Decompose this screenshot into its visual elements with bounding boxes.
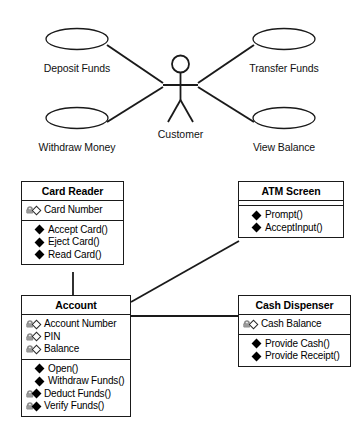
class-title-atm-screen: ATM Screen — [239, 182, 343, 201]
class-box-card-reader[interactable]: Card Reader Card Number — [21, 181, 124, 265]
attribute-row: Cash Balance — [243, 318, 348, 331]
filled-diamond-icon — [36, 363, 47, 375]
attribute-row: Account Number — [26, 318, 128, 331]
operation-label: Read Card() — [48, 249, 101, 261]
attribute-row: Card Number — [26, 204, 121, 217]
operation-row: Verify Funds() — [26, 400, 128, 413]
operation-row: Accept Card() — [26, 224, 121, 237]
class-box-atm-screen[interactable]: ATM Screen Prompt() AcceptInput() — [238, 181, 344, 238]
attributes-compartment-account: Account Number PIN — [22, 315, 130, 360]
filled-diamond-icon — [36, 375, 47, 387]
lock-hollow-diamond-icon — [26, 318, 43, 330]
operation-row: Read Card() — [26, 249, 121, 262]
operation-label: Provide Receipt() — [265, 350, 340, 362]
filled-diamond-icon — [253, 350, 264, 362]
filled-diamond-icon — [253, 209, 264, 221]
lock-hollow-diamond-icon — [26, 204, 43, 216]
operations-compartment-card-reader: Accept Card() Eject Card() Read Card() — [22, 221, 123, 265]
lock-hollow-diamond-icon — [26, 331, 43, 343]
filled-diamond-glyph — [252, 351, 262, 361]
filled-diamond-glyph — [35, 225, 45, 235]
class-title-card-reader: Card Reader — [22, 182, 123, 201]
attribute-label: Card Number — [44, 204, 102, 216]
class-box-account[interactable]: Account Account Number — [21, 295, 131, 417]
operation-label: AcceptInput() — [265, 222, 323, 234]
filled-diamond-icon — [36, 236, 47, 248]
class-box-cash-dispenser[interactable]: Cash Dispenser Cash Balance — [238, 295, 351, 367]
filled-diamond-glyph — [35, 237, 45, 247]
attribute-row: Balance — [26, 343, 128, 356]
operation-row: Deduct Funds() — [26, 388, 128, 401]
operation-label: Prompt() — [265, 209, 303, 221]
operation-label: Eject Card() — [48, 236, 100, 248]
filled-diamond-glyph — [252, 210, 262, 220]
filled-diamond-glyph — [252, 223, 262, 233]
operation-label: Provide Cash() — [265, 338, 330, 350]
class-title-cash-dispenser: Cash Dispenser — [239, 296, 350, 315]
operation-row: Open() — [26, 363, 128, 376]
filled-diamond-icon — [253, 222, 264, 234]
attribute-label: Account Number — [44, 318, 116, 330]
lock-filled-diamond-icon — [26, 388, 43, 400]
uml-diagram-canvas: Deposit Funds Transfer Funds Withdraw Mo… — [0, 0, 363, 434]
filled-diamond-glyph — [252, 339, 262, 349]
operations-compartment-account: Open() Withdraw Funds() — [22, 360, 130, 416]
operation-row: Provide Cash() — [243, 338, 348, 351]
filled-diamond-icon — [36, 224, 47, 236]
operation-row: Provide Receipt() — [243, 350, 348, 363]
filled-diamond-icon — [253, 338, 264, 350]
lock-hollow-diamond-icon — [26, 343, 43, 355]
operations-compartment-atm-screen: Prompt() AcceptInput() — [239, 206, 343, 237]
operation-row: AcceptInput() — [243, 222, 341, 235]
operations-compartment-cash-dispenser: Provide Cash() Provide Receipt() — [239, 335, 350, 366]
operation-label: Withdraw Funds() — [48, 375, 125, 387]
filled-diamond-icon — [36, 249, 47, 261]
attributes-compartment-card-reader: Card Number — [22, 201, 123, 221]
filled-diamond-glyph — [35, 364, 45, 374]
operation-label: Deduct Funds() — [44, 388, 111, 400]
class-layer: Card Reader Card Number — [0, 0, 363, 434]
attribute-label: Balance — [44, 343, 79, 355]
class-title-account: Account — [22, 296, 130, 315]
attribute-row: PIN — [26, 331, 128, 344]
operation-label: Verify Funds() — [44, 400, 104, 412]
operation-row: Withdraw Funds() — [26, 375, 128, 388]
filled-diamond-glyph — [35, 376, 45, 386]
operation-row: Eject Card() — [26, 236, 121, 249]
lock-hollow-diamond-icon — [243, 318, 260, 330]
attributes-compartment-cash-dispenser: Cash Balance — [239, 315, 350, 335]
attribute-label: Cash Balance — [261, 318, 321, 330]
operation-label: Open() — [48, 363, 78, 375]
operation-row: Prompt() — [243, 209, 341, 222]
operation-label: Accept Card() — [48, 224, 108, 236]
attribute-label: PIN — [44, 331, 60, 343]
lock-filled-diamond-icon — [26, 400, 43, 412]
filled-diamond-glyph — [35, 250, 45, 260]
